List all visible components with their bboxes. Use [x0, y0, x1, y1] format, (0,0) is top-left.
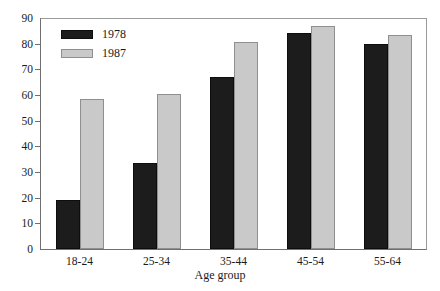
legend-item-1987: 1987 — [61, 45, 139, 62]
bar-group — [287, 18, 335, 249]
bar-45-54-1978 — [287, 33, 311, 249]
legend-swatch-1978 — [61, 30, 93, 39]
y-axis-tick-mark — [35, 121, 40, 122]
y-axis-tick-label: 40 — [22, 138, 34, 154]
bar-chart: 0102030405060708090 18-2425-3435-4445-54… — [0, 0, 440, 291]
bar-18-24-1978 — [56, 200, 80, 249]
bar-25-34-1978 — [133, 163, 157, 249]
bar-25-34-1987 — [157, 94, 181, 249]
y-axis-tick-label: 20 — [22, 190, 34, 206]
legend-item-1978: 1978 — [61, 26, 139, 43]
y-axis: 0102030405060708090 — [0, 0, 40, 291]
y-axis-tick-mark — [35, 146, 40, 147]
legend-swatch-1987 — [61, 49, 93, 58]
y-axis-tick-label: 60 — [22, 87, 34, 103]
y-axis-tick-label: 90 — [22, 10, 34, 26]
bar-group — [133, 18, 181, 249]
bar-45-54-1987 — [311, 26, 335, 249]
y-axis-tick-mark — [35, 223, 40, 224]
y-axis-tick-label: 80 — [22, 36, 34, 52]
bar-55-64-1987 — [388, 35, 412, 249]
y-axis-tick-label: 10 — [22, 215, 34, 231]
legend-label-1987: 1987 — [102, 46, 126, 61]
bar-35-44-1987 — [234, 42, 258, 249]
bar-18-24-1987 — [80, 99, 104, 249]
legend-label-1978: 1978 — [102, 27, 126, 42]
bar-55-64-1978 — [364, 44, 388, 249]
y-axis-tick-label: 50 — [22, 113, 34, 129]
y-axis-tick-mark — [35, 172, 40, 173]
y-axis-tick-label: 30 — [22, 164, 34, 180]
y-axis-tick-label: 70 — [22, 61, 34, 77]
bar-group — [364, 18, 412, 249]
bar-35-44-1978 — [210, 77, 234, 249]
y-axis-tick-mark — [35, 44, 40, 45]
y-axis-tick-mark — [35, 69, 40, 70]
x-axis-title: Age group — [0, 267, 440, 283]
chart-legend: 1978 1987 — [61, 26, 139, 64]
y-axis-tick-label: 0 — [27, 241, 33, 257]
y-axis-tick-mark — [35, 95, 40, 96]
bar-group — [210, 18, 258, 249]
y-axis-tick-mark — [35, 198, 40, 199]
